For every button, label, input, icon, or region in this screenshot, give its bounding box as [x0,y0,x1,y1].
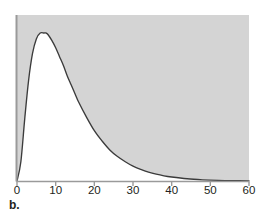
x-tick-label-30: 30 [120,184,146,197]
panel-caption: b. [9,198,20,212]
x-tick-label-50: 50 [197,184,223,197]
x-tick-label-20: 20 [81,184,107,197]
x-tick-label-60: 60 [236,184,260,197]
chart-plot-area [0,0,260,190]
x-tick-label-40: 40 [159,184,185,197]
density-curve-chart [0,0,260,190]
x-tick-label-10: 10 [43,184,69,197]
figure-panel: 0102030405060 b. [0,0,260,218]
x-tick-label-0: 0 [4,184,30,197]
